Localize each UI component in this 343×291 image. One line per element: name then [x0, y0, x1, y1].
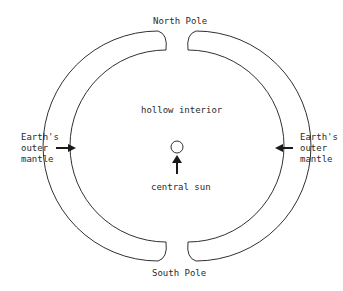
right-mantle-label-line3: mantle — [300, 154, 333, 164]
left-mantle-label-line1: Earth's — [21, 132, 59, 142]
arrow-right-icon — [56, 144, 76, 152]
central-sun-icon — [171, 141, 183, 153]
left-mantle-label-line2: outer — [21, 143, 48, 153]
left-shell-half — [43, 31, 166, 261]
central-sun-label: central sun — [151, 182, 211, 192]
right-shell-half — [188, 31, 311, 261]
right-mantle-label-line2: outer — [300, 143, 327, 153]
left-mantle-label-line3: mantle — [21, 154, 54, 164]
arrow-up-icon — [172, 155, 182, 174]
north-pole-label: North Pole — [153, 16, 207, 26]
hollow-interior-label: hollow interior — [141, 105, 222, 115]
right-mantle-label-line1: Earth's — [300, 132, 338, 142]
hollow-earth-shell-drawing — [0, 0, 343, 291]
south-pole-label: South Pole — [152, 268, 206, 278]
hollow-earth-diagram: North Pole hollow interior central sun S… — [0, 0, 343, 291]
